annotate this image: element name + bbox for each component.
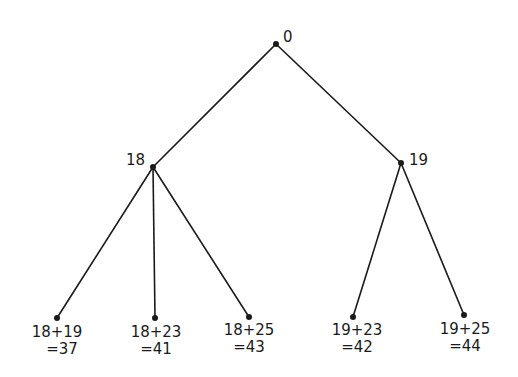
node-root <box>273 41 279 47</box>
edge-19-leaf-5 <box>401 163 464 315</box>
leaf-5-expr: 19+25 <box>430 321 500 338</box>
leaf-3-expr: 18+25 <box>214 322 284 339</box>
leaf-3-result: =43 <box>214 339 284 356</box>
leaf-1-result: =37 <box>22 341 92 358</box>
root-label: 0 <box>283 29 293 45</box>
node-leaf-3 <box>246 314 252 320</box>
edge-19-leaf-4 <box>353 163 401 317</box>
edge-root-18 <box>153 44 276 167</box>
node-18 <box>150 164 156 170</box>
node-18-label: 18 <box>126 152 145 168</box>
node-leaf-1 <box>54 315 60 321</box>
leaf-2-label: 18+23 =41 <box>121 324 191 358</box>
node-19-label: 19 <box>409 152 428 168</box>
edge-18-leaf-3 <box>153 167 249 317</box>
edge-18-leaf-2 <box>153 167 155 318</box>
node-leaf-4 <box>350 314 356 320</box>
leaf-4-label: 19+23 =42 <box>322 322 392 356</box>
leaf-4-result: =42 <box>322 339 392 356</box>
leaf-3-label: 18+25 =43 <box>214 322 284 356</box>
edge-18-leaf-1 <box>57 167 153 318</box>
edge-root-19 <box>276 44 401 163</box>
leaf-4-expr: 19+23 <box>322 322 392 339</box>
leaf-1-label: 18+19 =37 <box>22 324 92 358</box>
leaf-2-expr: 18+23 <box>121 324 191 341</box>
leaf-5-label: 19+25 =44 <box>430 321 500 355</box>
node-19 <box>398 160 404 166</box>
leaf-2-result: =41 <box>121 341 191 358</box>
leaf-5-result: =44 <box>430 338 500 355</box>
node-leaf-5 <box>461 312 467 318</box>
node-leaf-2 <box>152 315 158 321</box>
leaf-1-expr: 18+19 <box>22 324 92 341</box>
